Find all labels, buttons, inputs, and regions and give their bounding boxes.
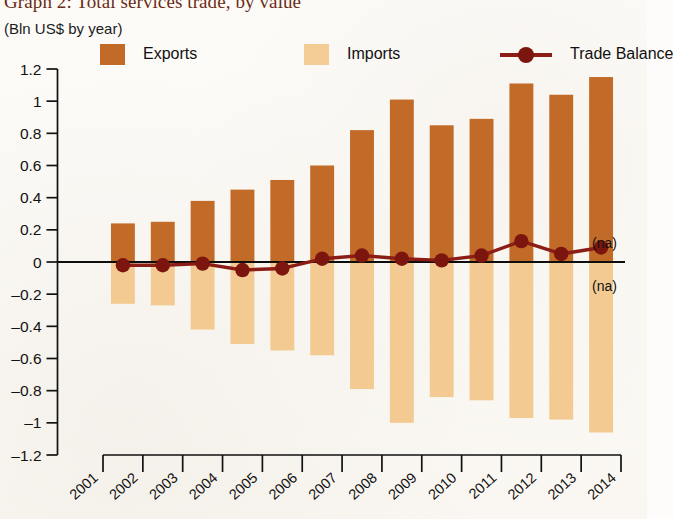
trade-balance-marker: [275, 261, 289, 275]
bar-exports: [191, 201, 215, 262]
y-axis-tick-label: 0.8: [20, 125, 42, 142]
bar-exports: [111, 223, 135, 262]
trade-balance-marker: [434, 253, 448, 267]
x-axis-tick-label: 2014: [584, 469, 619, 502]
bar-imports: [310, 262, 334, 355]
bar-imports: [390, 262, 414, 423]
y-axis-tick-label: –0.6: [11, 350, 41, 367]
imports-bars: [111, 262, 613, 432]
bar-exports: [231, 190, 255, 262]
x-axis-tick-label: 2013: [544, 469, 579, 502]
x-axis-tick-label: 2001: [66, 469, 101, 502]
y-axis-tick-label: 0.6: [20, 157, 42, 174]
y-axis-tick-label: 0: [33, 254, 42, 271]
na-label-below: (na): [592, 278, 617, 294]
x-axis-tick-label: 2012: [505, 469, 540, 502]
y-axis-tick-label: –0.8: [11, 382, 41, 399]
x-axis-tick-label: 2005: [226, 469, 261, 502]
x-axis-tick-label: 2009: [385, 469, 420, 502]
bar-imports: [509, 262, 533, 418]
y-axis-tick-label: 0.4: [20, 189, 42, 206]
bar-imports: [549, 262, 573, 420]
y-axis-tick-label: –0.2: [11, 286, 41, 303]
y-axis-tick-label: 1.2: [20, 61, 42, 78]
y-axis-ticks: 1.210.80.60.40.20–0.2–0.4–0.6–0.8–1–1.2: [11, 61, 57, 464]
x-axis-tick-label: 2011: [466, 469, 500, 502]
bar-exports: [350, 130, 374, 262]
x-axis-tick-label: 2006: [266, 469, 301, 502]
bar-exports: [151, 222, 175, 262]
bar-imports: [470, 262, 494, 400]
trade-balance-marker: [355, 248, 369, 262]
trade-balance-marker: [554, 247, 568, 261]
bar-exports: [470, 119, 494, 262]
trade-balance-marker: [514, 234, 528, 248]
x-axis-tick-label: 2002: [106, 469, 141, 502]
trade-balance-marker: [156, 258, 170, 272]
bar-imports: [430, 262, 454, 397]
y-axis-tick-label: –0.4: [11, 318, 42, 335]
bar-exports: [390, 100, 414, 262]
bar-exports: [430, 125, 454, 262]
trade-balance-marker: [195, 256, 209, 270]
x-axis-tick-label: 2007: [305, 469, 340, 502]
trade-balance-marker: [235, 263, 249, 277]
bar-imports: [350, 262, 374, 389]
na-label-above: (na): [592, 235, 617, 251]
trade-balance-marker: [315, 252, 329, 266]
y-axis-tick-label: 1: [33, 93, 42, 110]
x-axis: 2001200220032004200520062007200820092010…: [66, 455, 621, 503]
y-axis-tick-label: 0.2: [20, 221, 42, 238]
bar-exports: [270, 180, 294, 262]
x-axis-tick-label: 2010: [425, 469, 460, 502]
x-axis-tick-label: 2008: [345, 469, 380, 502]
exports-bars: [111, 77, 613, 262]
y-axis-tick-label: –1: [24, 414, 41, 431]
x-axis-tick-label: 2003: [146, 469, 181, 502]
trade-balance-marker: [474, 248, 488, 262]
bar-exports: [310, 166, 334, 263]
y-axis-tick-label: –1.2: [11, 447, 41, 464]
trade-balance-marker: [116, 258, 130, 272]
bar-imports: [191, 262, 215, 330]
trade-balance-marker: [395, 252, 409, 266]
bar-exports: [549, 95, 573, 262]
x-axis-tick-label: 2004: [186, 469, 221, 502]
